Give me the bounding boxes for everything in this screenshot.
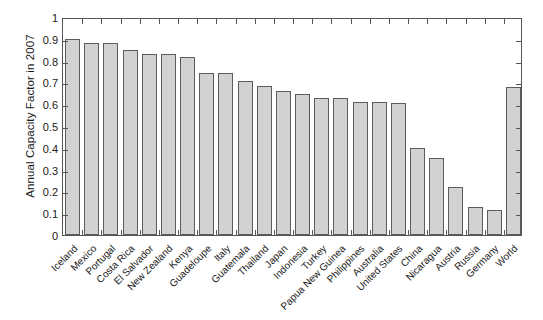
y-axis-tick-label: 0.3: [32, 165, 58, 176]
x-axis-tick-mark: [140, 19, 141, 24]
x-axis-tick-mark: [255, 230, 256, 235]
bar: [180, 57, 195, 235]
bar: [410, 148, 425, 235]
y-axis-tick-mark: [516, 41, 521, 42]
x-axis-tick-mark: [485, 230, 486, 235]
x-axis-tick-mark: [274, 230, 275, 235]
bar: [429, 158, 444, 235]
x-axis-tick-mark: [236, 230, 237, 235]
x-axis-tick-mark: [427, 19, 428, 24]
y-axis-tick-label: 0.8: [32, 56, 58, 67]
x-axis-tick-mark: [101, 230, 102, 235]
bar: [257, 86, 272, 235]
y-axis-tick-label: 0.9: [32, 34, 58, 45]
y-axis-tick-label: 0.2: [32, 187, 58, 198]
x-axis-tick-mark: [466, 19, 467, 24]
bar: [238, 81, 253, 235]
x-axis-tick-mark: [389, 230, 390, 235]
bar: [123, 50, 138, 235]
bar: [487, 210, 502, 235]
x-axis-tick-mark: [159, 230, 160, 235]
x-axis-tick-mark: [274, 19, 275, 24]
x-axis-tick-mark: [197, 19, 198, 24]
x-axis-tick-mark: [370, 230, 371, 235]
bar: [353, 102, 368, 235]
x-axis-tick-mark: [312, 230, 313, 235]
x-axis-tick-mark: [427, 230, 428, 235]
y-axis-tick-label: 0.5: [32, 122, 58, 133]
y-axis-tick-label: 0: [32, 231, 58, 242]
bar: [199, 73, 214, 235]
x-axis-tick-mark: [331, 19, 332, 24]
x-axis-tick-mark: [178, 230, 179, 235]
bar: [142, 54, 157, 235]
x-axis-tick-mark: [408, 230, 409, 235]
x-axis-tick-mark: [255, 19, 256, 24]
x-axis-tick-mark: [159, 19, 160, 24]
x-axis-tick-mark: [389, 19, 390, 24]
x-axis-tick-mark: [293, 19, 294, 24]
y-axis-tick-mark: [63, 193, 68, 194]
x-axis-tick-mark: [446, 230, 447, 235]
bar: [218, 73, 233, 235]
bar: [506, 87, 521, 235]
bar: [448, 187, 463, 235]
x-axis-tick-mark: [485, 19, 486, 24]
chart-figure: Annual Capacity Factor in 2007 00.10.20.…: [0, 0, 543, 320]
y-axis-tick-mark: [63, 172, 68, 173]
bar: [295, 94, 310, 235]
x-axis-tick-mark: [121, 230, 122, 235]
y-axis-tick-mark: [63, 128, 68, 129]
x-axis-tick-mark: [446, 19, 447, 24]
bar: [468, 207, 483, 235]
bar: [372, 102, 387, 235]
x-axis-tick-mark: [216, 230, 217, 235]
x-axis-tick-mark: [312, 19, 313, 24]
x-axis-tick-mark: [197, 230, 198, 235]
y-axis-tick-mark: [516, 215, 521, 216]
x-axis-tick-mark: [504, 19, 505, 24]
y-axis-tick-mark: [63, 215, 68, 216]
y-axis-tick-mark: [516, 63, 521, 64]
bar: [84, 43, 99, 235]
x-axis-tick-mark: [370, 19, 371, 24]
bar: [161, 54, 176, 235]
bar: [276, 91, 291, 235]
bar: [65, 39, 80, 235]
x-axis-tick-mark: [293, 230, 294, 235]
y-axis-tick-label: 1: [32, 13, 58, 24]
x-axis-tick-mark: [331, 230, 332, 235]
y-axis-tick-mark: [63, 63, 68, 64]
y-axis-tick-mark: [516, 84, 521, 85]
x-axis-tick-mark: [351, 230, 352, 235]
y-axis-tick-mark: [516, 193, 521, 194]
y-axis-tick-label: 0.1: [32, 209, 58, 220]
bar: [103, 43, 118, 235]
x-axis-tick-mark: [504, 230, 505, 235]
bar: [333, 98, 348, 235]
plot-area: [62, 18, 522, 236]
x-axis-tick-mark: [408, 19, 409, 24]
y-axis-tick-mark: [63, 41, 68, 42]
x-axis-tick-mark: [82, 19, 83, 24]
y-axis-tick-mark: [516, 150, 521, 151]
x-axis-tick-mark: [101, 19, 102, 24]
y-axis-tick-label: 0.6: [32, 100, 58, 111]
y-axis-tick-mark: [516, 172, 521, 173]
x-axis-tick-mark: [351, 19, 352, 24]
y-axis-tick-label: 0.4: [32, 143, 58, 154]
x-axis-tick-mark: [236, 19, 237, 24]
bar: [314, 98, 329, 235]
x-axis-tick-mark: [466, 230, 467, 235]
x-axis-tick-mark: [140, 230, 141, 235]
bar: [391, 103, 406, 235]
y-axis-tick-label: 0.7: [32, 78, 58, 89]
y-axis-tick-mark: [516, 106, 521, 107]
x-axis-tick-mark: [82, 230, 83, 235]
y-axis-tick-mark: [63, 150, 68, 151]
y-axis-tick-mark: [63, 84, 68, 85]
x-axis-tick-mark: [216, 19, 217, 24]
y-axis-tick-labels: 00.10.20.30.40.50.60.70.80.91: [28, 18, 58, 236]
x-axis-tick-mark: [178, 19, 179, 24]
y-axis-tick-mark: [516, 128, 521, 129]
